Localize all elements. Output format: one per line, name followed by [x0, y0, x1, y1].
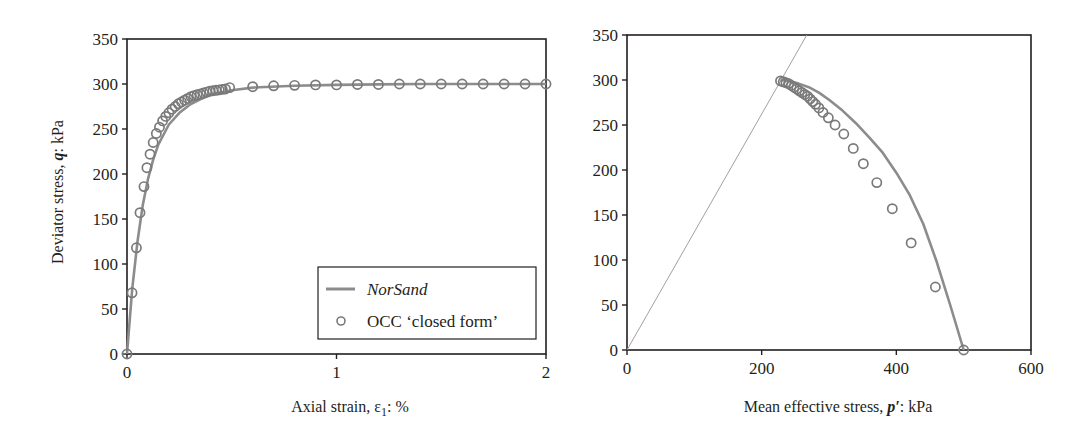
y-tick-label: 200: [593, 161, 619, 180]
right-plot-frame: [627, 35, 1031, 350]
y-tick-label: 300: [93, 75, 119, 94]
data-point-marker: [149, 138, 158, 147]
right-x-label-ital: p′: [885, 398, 900, 416]
data-point-marker: [872, 178, 881, 187]
left-x-label-post: : %: [387, 398, 409, 415]
y-tick-label: 150: [93, 210, 119, 229]
x-tick-label: 400: [884, 359, 910, 378]
y-tick-label: 250: [93, 120, 119, 139]
left-y-ticks: 050100150200250300350: [93, 30, 128, 364]
critical-state-line: [627, 35, 807, 350]
y-tick-label: 0: [610, 341, 619, 360]
left-x-ticks: 012: [123, 354, 551, 382]
right-x-ticks: 0200400600: [623, 350, 1044, 378]
x-tick-label: 600: [1018, 359, 1044, 378]
right-x-axis-label: Mean effective stress, p′: kPa: [744, 398, 933, 416]
y-tick-label: 350: [593, 26, 619, 45]
data-point-marker: [931, 282, 940, 291]
right-x-label-pre: Mean effective stress,: [744, 398, 888, 415]
data-point-marker: [849, 144, 858, 153]
legend-label-norsand: NorSand: [366, 280, 428, 299]
x-tick-label: 200: [749, 359, 775, 378]
left-y-axis-label: Deviator stress, q: kPa: [49, 120, 67, 264]
series-line: [781, 80, 964, 350]
data-point-marker: [839, 129, 848, 138]
legend: NorSand OCC ‘closed form’: [318, 267, 536, 339]
data-point-marker: [907, 238, 916, 247]
figure: 050100150200250300350 012 Deviator stres…: [0, 0, 1086, 438]
left-y-label-post: : kPa: [49, 120, 66, 152]
data-point-marker: [859, 159, 868, 168]
y-tick-label: 350: [93, 30, 119, 49]
left-x-axis-label: Axial strain, ε1: %: [291, 398, 409, 419]
y-tick-label: 250: [593, 116, 619, 135]
y-tick-label: 100: [93, 255, 119, 274]
left-y-label-pre: Deviator stress,: [49, 160, 66, 264]
x-tick-label: 0: [123, 363, 132, 382]
left-chart: 050100150200250300350 012 Deviator stres…: [49, 30, 551, 419]
y-tick-label: 200: [93, 165, 119, 184]
y-tick-label: 300: [593, 71, 619, 90]
y-tick-label: 50: [601, 296, 618, 315]
y-tick-label: 50: [101, 300, 118, 319]
right-y-ticks: 050100150200250300350: [593, 26, 628, 360]
right-series: [627, 35, 968, 355]
left-x-label-pre: Axial strain, ε: [291, 398, 381, 415]
data-point-marker: [824, 113, 833, 122]
x-tick-label: 2: [542, 363, 551, 382]
right-x-label-post: : kPa: [900, 398, 932, 415]
x-tick-label: 1: [332, 363, 341, 382]
legend-label-occ: OCC ‘closed form’: [367, 312, 498, 331]
right-chart: 050100150200250300350 0200400600 Mean ef…: [593, 26, 1044, 416]
y-tick-label: 100: [593, 251, 619, 270]
x-tick-label: 0: [623, 359, 632, 378]
data-point-marker: [888, 204, 897, 213]
data-point-marker: [145, 150, 154, 159]
y-tick-label: 150: [593, 206, 619, 225]
left-y-label-ital: q: [49, 152, 67, 160]
y-tick-label: 0: [110, 345, 119, 364]
